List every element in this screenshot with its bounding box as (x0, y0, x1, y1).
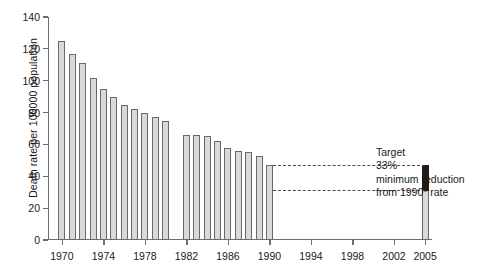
y-tick (43, 239, 48, 240)
y-tick (43, 176, 48, 177)
x-tick-label: 1982 (175, 250, 198, 262)
y-tick (43, 80, 48, 81)
bar (183, 135, 190, 240)
bar (100, 89, 107, 240)
x-tick (352, 240, 353, 245)
y-tick-label: 0 (34, 234, 40, 246)
y-tick-label: 40 (28, 170, 40, 182)
x-tick (103, 240, 104, 245)
y-axis-line (48, 17, 49, 240)
y-tick-label: 60 (28, 138, 40, 150)
bar (214, 141, 221, 240)
x-tick-label: 1994 (299, 250, 322, 262)
x-tick (145, 240, 146, 245)
y-tick-label: 100 (22, 75, 40, 87)
bar (121, 105, 128, 240)
y-tick (43, 112, 48, 113)
bar (110, 97, 117, 240)
x-tick (425, 240, 426, 245)
target-annotation: Target 33% minimum reduction from 1990* … (376, 146, 465, 200)
x-tick (186, 240, 187, 245)
y-tick (43, 48, 48, 49)
x-tick (394, 240, 395, 245)
x-tick (62, 240, 63, 245)
x-tick (269, 240, 270, 245)
x-tick-label: 1970 (50, 250, 73, 262)
bar (235, 151, 242, 240)
bar (193, 135, 200, 240)
bar (204, 136, 211, 240)
annotation-line-1: Target (376, 146, 465, 159)
bar (162, 121, 169, 240)
bar (266, 165, 273, 240)
y-tick (43, 16, 48, 17)
plot-area: 020406080100120140 197019741978198219861… (48, 17, 432, 240)
x-tick-label: 1978 (133, 250, 156, 262)
y-tick-label: 80 (28, 107, 40, 119)
x-tick (228, 240, 229, 245)
bar (141, 113, 148, 240)
bar (79, 63, 86, 240)
annotation-line-3: minimum reduction (376, 173, 465, 186)
bar (256, 156, 263, 240)
y-tick (43, 144, 48, 145)
bar (58, 41, 65, 240)
bar (131, 109, 138, 240)
bar (245, 152, 252, 240)
y-tick-label: 20 (28, 202, 40, 214)
y-tick-label: 140 (22, 11, 40, 23)
x-tick-label: 2005 (413, 250, 436, 262)
bar (69, 54, 76, 240)
bar (152, 117, 159, 240)
y-tick (43, 208, 48, 209)
bar (90, 78, 97, 240)
y-tick-label: 120 (22, 43, 40, 55)
x-tick-label: 1990 (258, 250, 281, 262)
bar (224, 148, 231, 240)
annotation-line-4: from 1990* rate (376, 186, 465, 199)
chart-container: Death rate per 100000 population 0204060… (0, 0, 480, 277)
x-tick-label: 1974 (92, 250, 115, 262)
annotation-line-2: 33% (376, 159, 465, 172)
x-tick-label: 2002 (382, 250, 405, 262)
x-tick (311, 240, 312, 245)
x-tick-label: 1998 (341, 250, 364, 262)
x-tick-label: 1986 (216, 250, 239, 262)
